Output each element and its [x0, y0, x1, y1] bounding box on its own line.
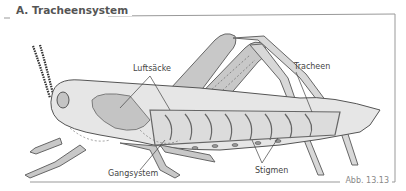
eye: [57, 92, 69, 108]
figure-caption: Abb. 13.13: [342, 176, 392, 185]
antenna: [33, 45, 54, 98]
figure-title: A. Tracheensystem: [12, 4, 132, 16]
label-luftsaecke: Luftsäcke: [133, 64, 171, 73]
grasshopper-diagram: [0, 0, 406, 191]
label-tracheen: Tracheen: [294, 62, 330, 71]
label-gangsystem: Gangsystem: [108, 169, 158, 178]
label-stigmen: Stigmen: [255, 166, 288, 175]
